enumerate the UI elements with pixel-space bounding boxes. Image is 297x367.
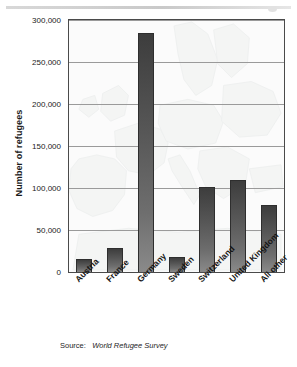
x-tick-label-sweden: Sweden — [166, 254, 196, 284]
source-caption: Source: World Refugee Survey — [60, 341, 168, 350]
x-tick-label-france: France — [104, 257, 131, 284]
chart-figure: Number of refugees — [0, 0, 297, 367]
source-prefix: Source: — [60, 341, 86, 350]
x-tick-label-all-other: All other — [258, 253, 289, 284]
source-title: World Refugee Survey — [92, 341, 167, 350]
x-tick-label-austria: Austria — [73, 256, 101, 284]
x-tick-label-germany: Germany — [135, 251, 168, 284]
x-axis-tick-labels: AustriaFranceGermanySwedenSwitzerlandUni… — [0, 0, 297, 367]
